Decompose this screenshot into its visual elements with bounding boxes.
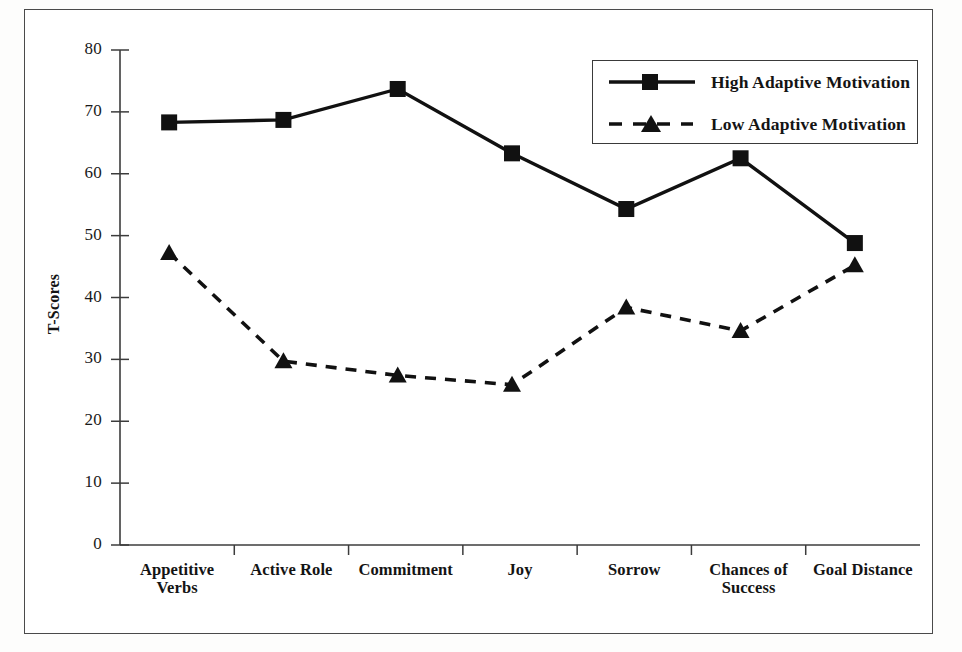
- y-tick-label: 0: [62, 534, 102, 554]
- triangle-marker-icon: [593, 111, 711, 137]
- series-line-2: [169, 253, 855, 385]
- x-tick-label-line: Chances of: [709, 560, 787, 579]
- square-marker-icon: [593, 69, 711, 95]
- data-point-2-5[interactable]: [617, 298, 635, 314]
- x-tick-label-line: Verbs: [157, 578, 198, 597]
- x-axis-ticks: [234, 545, 805, 555]
- y-axis-title: T-Scores: [45, 244, 63, 364]
- data-point-1-7[interactable]: [847, 235, 863, 251]
- data-point-2-6[interactable]: [732, 322, 750, 338]
- data-point-1-2[interactable]: [275, 112, 291, 128]
- data-point-1-1[interactable]: [161, 114, 177, 130]
- figure-container: T-Scores 01020304050607080 AppetitiveVer…: [0, 0, 962, 652]
- x-tick-label-line: Commitment: [358, 560, 452, 579]
- y-tick-label: 30: [62, 348, 102, 368]
- legend-label-low: Low Adaptive Motivation: [711, 114, 906, 135]
- legend-entry-low[interactable]: Low Adaptive Motivation: [593, 103, 917, 145]
- y-tick-label: 50: [62, 225, 102, 245]
- chart-legend: High Adaptive Motivation Low Adaptive Mo…: [592, 60, 918, 144]
- data-point-1-5[interactable]: [618, 201, 634, 217]
- data-point-1-3[interactable]: [390, 81, 406, 97]
- legend-label-high: High Adaptive Motivation: [711, 72, 910, 93]
- x-tick-label-line: Joy: [507, 560, 532, 579]
- y-tick-label: 70: [62, 101, 102, 121]
- y-tick-label: 80: [62, 39, 102, 59]
- y-tick-label: 20: [62, 410, 102, 430]
- y-tick-label: 60: [62, 163, 102, 183]
- x-tick-label-7: Goal Distance: [794, 561, 932, 579]
- x-tick-label-line: Goal Distance: [813, 560, 913, 579]
- data-point-2-7[interactable]: [846, 256, 864, 272]
- x-tick-label-line: Success: [722, 578, 776, 597]
- x-tick-label-line: Active Role: [250, 560, 332, 579]
- legend-entry-high[interactable]: High Adaptive Motivation: [593, 61, 917, 103]
- x-tick-label-line: Appetitive: [140, 560, 214, 579]
- y-tick-label: 10: [62, 472, 102, 492]
- data-point-1-6[interactable]: [733, 150, 749, 166]
- y-tick-label: 40: [62, 287, 102, 307]
- data-point-1-4[interactable]: [504, 145, 520, 161]
- data-point-2-1[interactable]: [160, 244, 178, 260]
- x-tick-label-line: Sorrow: [608, 560, 661, 579]
